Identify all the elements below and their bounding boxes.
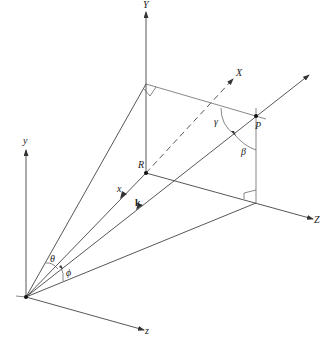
Z-axis-line — [146, 173, 313, 219]
phi-label: ϕ — [66, 267, 71, 278]
point-R — [144, 171, 148, 175]
x-axis-label: x — [116, 183, 122, 194]
x-axis-line — [26, 173, 146, 297]
origin-to-bottom-line — [26, 203, 256, 297]
gamma-arc — [221, 108, 234, 134]
k-vector-label: k — [135, 197, 141, 208]
theta-label: θ — [50, 253, 55, 264]
diagram-svg: Y X Z y x z P R k θ ϕ γ β — [0, 0, 336, 348]
diagram-canvas: Y X Z y x z P R k θ ϕ γ β — [0, 0, 336, 348]
origin-point — [24, 295, 28, 299]
point-P — [254, 114, 258, 118]
z-axis-label: z — [144, 325, 149, 336]
Y-axis-label: Y — [143, 0, 150, 10]
X-axis-line — [146, 79, 233, 173]
direction-line — [26, 75, 309, 297]
gamma-label: γ — [214, 116, 219, 127]
point-P-label: P — [254, 120, 261, 131]
beta-label: β — [240, 146, 246, 157]
y-axis-label: y — [22, 135, 28, 146]
point-R-label: R — [137, 159, 144, 170]
z-axis-line — [26, 297, 144, 330]
theta-arrow — [59, 265, 63, 269]
X-axis-label: X — [235, 67, 243, 78]
top-edge-line — [146, 84, 266, 119]
right-angle-mark-bottom — [244, 190, 256, 199]
origin-to-top-line — [26, 84, 146, 297]
Z-axis-label: Z — [314, 214, 320, 225]
